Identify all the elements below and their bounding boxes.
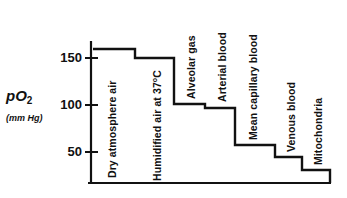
step-label-venous-blood: Venous blood — [286, 82, 297, 152]
oxygen-cascade-figure: pO2 (mm Hg) 150 100 50 Dry atmosphere ai… — [0, 0, 347, 198]
step-label-arterial-blood: Arterial blood — [217, 32, 228, 102]
y-axis-title-subscript: 2 — [27, 95, 33, 106]
step-label-humidified-air-text: Humidified air at 37 — [151, 82, 163, 181]
step-label-alveolar-gas: Alveolar gas — [186, 35, 197, 99]
step-label-dry-atmosphere-air: Dry atmosphere air — [107, 80, 118, 178]
step-label-mitochondria: Mitochondria — [313, 98, 324, 165]
y-tick-label-100: 100 — [48, 98, 82, 111]
y-axis-title-text: pO — [6, 87, 27, 104]
degree-symbol-icon: o — [151, 78, 158, 82]
y-tick-label-50: 50 — [48, 145, 82, 158]
step-label-humidified-air-tail: C — [151, 70, 163, 78]
y-axis-units: (mm Hg) — [6, 113, 62, 123]
y-tick-label-150: 150 — [48, 51, 82, 64]
step-label-mean-capillary-blood: Mean capillary blood — [248, 34, 259, 140]
step-label-humidified-air: Humidified air at 37oC — [152, 70, 163, 181]
